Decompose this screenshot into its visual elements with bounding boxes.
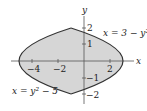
x-tick-label: −4 (27, 64, 41, 74)
y-tick-label: 1 (87, 39, 93, 49)
region-diagram: x y −4 −2 2 2 1 −1 −2 x = 3 − y² x = y² … (0, 0, 147, 111)
x-tick-label: −2 (53, 64, 66, 74)
y-tick-label: 2 (87, 23, 93, 33)
x-axis-label: x (136, 56, 141, 66)
y-tick-label: −2 (86, 90, 99, 100)
x-tick-label: 2 (107, 64, 113, 74)
y-axis-label: y (81, 5, 88, 15)
y-tick-label: −1 (86, 73, 99, 83)
left-curve-label: x = y² − 5 (12, 86, 58, 96)
right-curve-label: x = 3 − y² (103, 28, 147, 38)
